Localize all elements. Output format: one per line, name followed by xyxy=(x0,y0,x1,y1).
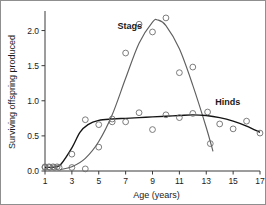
y-tick-label: 1.0 xyxy=(27,96,39,106)
data-point-hinds xyxy=(230,126,236,132)
data-point-stags xyxy=(150,29,156,35)
scatter-plot: 0.00.51.01.52.01357911131517Age (years)S… xyxy=(1,1,266,205)
series-label-stags: Stags xyxy=(117,21,142,31)
data-point-stags xyxy=(176,70,182,76)
data-point-hinds xyxy=(136,110,142,116)
figure-frame: 0.00.51.01.52.01357911131517Age (years)S… xyxy=(0,0,266,205)
data-point-hinds xyxy=(69,151,75,157)
data-point-hinds xyxy=(150,127,156,133)
data-point-stags xyxy=(123,50,129,56)
x-axis-title: Age (years) xyxy=(133,190,180,200)
data-point-hinds xyxy=(205,109,211,115)
data-point-hinds xyxy=(257,130,263,136)
data-point-hinds xyxy=(123,119,129,125)
data-point-hinds xyxy=(96,122,102,128)
x-tick-label: 17 xyxy=(255,176,265,186)
data-point-hinds xyxy=(244,118,250,124)
x-tick-label: 9 xyxy=(150,176,155,186)
x-tick-label: 7 xyxy=(123,176,128,186)
data-point-stags xyxy=(96,144,102,150)
data-point-hinds xyxy=(82,117,88,123)
x-tick-label: 3 xyxy=(70,176,75,186)
x-tick-label: 5 xyxy=(96,176,101,186)
y-tick-label: 2.0 xyxy=(27,26,39,36)
y-tick-label: 0.5 xyxy=(27,131,39,141)
x-tick-label: 13 xyxy=(202,176,212,186)
y-axis-title: Surviving offspring produced xyxy=(7,35,17,149)
x-tick-label: 15 xyxy=(228,176,238,186)
data-point-hinds xyxy=(217,121,223,127)
data-point-stags xyxy=(163,15,169,21)
fit-curve-stags xyxy=(60,19,213,169)
y-tick-label: 0.0 xyxy=(27,166,39,176)
data-point-stags xyxy=(190,64,196,70)
y-tick-label: 1.5 xyxy=(27,61,39,71)
x-tick-label: 11 xyxy=(175,176,184,186)
x-tick-label: 1 xyxy=(43,176,48,186)
series-label-hinds: Hinds xyxy=(215,97,240,107)
fit-curve-hinds xyxy=(45,115,260,168)
